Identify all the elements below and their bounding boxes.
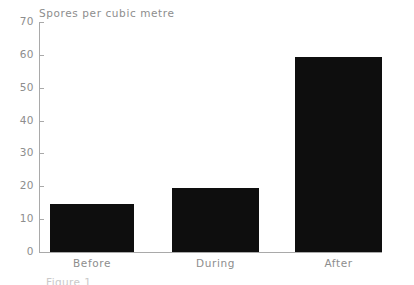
y-axis-tick: [39, 186, 44, 187]
x-axis-line: [39, 252, 382, 253]
y-axis-tick-label: 20: [20, 179, 34, 191]
y-axis-tick-label: 70: [20, 15, 34, 27]
y-axis-tick: [39, 88, 44, 89]
y-axis-tick-label: 60: [20, 48, 34, 60]
x-axis-category-label: Before: [50, 257, 134, 269]
y-axis-tick-label: 0: [27, 245, 34, 257]
y-axis-tick-label: 30: [20, 146, 34, 158]
bar: [295, 57, 382, 252]
x-axis-category-label: During: [172, 257, 259, 269]
y-axis-title: Spores per cubic metre: [39, 7, 175, 19]
y-axis-tick: [39, 55, 44, 56]
y-axis-tick: [39, 153, 44, 154]
figure-caption: Figure 1: [46, 276, 91, 285]
y-axis-tick-label: 50: [20, 81, 34, 93]
y-axis-tick-labels: 010203040506070: [0, 0, 34, 285]
y-axis-tick: [39, 252, 44, 253]
y-axis-tick: [39, 22, 44, 23]
bar: [172, 188, 259, 252]
bar-chart-figure: Spores per cubic metre 010203040506070 B…: [0, 0, 414, 285]
bar: [50, 204, 134, 252]
y-axis-tick: [39, 121, 44, 122]
y-axis-tick-label: 10: [20, 212, 34, 224]
y-axis-tick: [39, 219, 44, 220]
x-axis-category-label: After: [295, 257, 382, 269]
y-axis-tick-label: 40: [20, 114, 34, 126]
